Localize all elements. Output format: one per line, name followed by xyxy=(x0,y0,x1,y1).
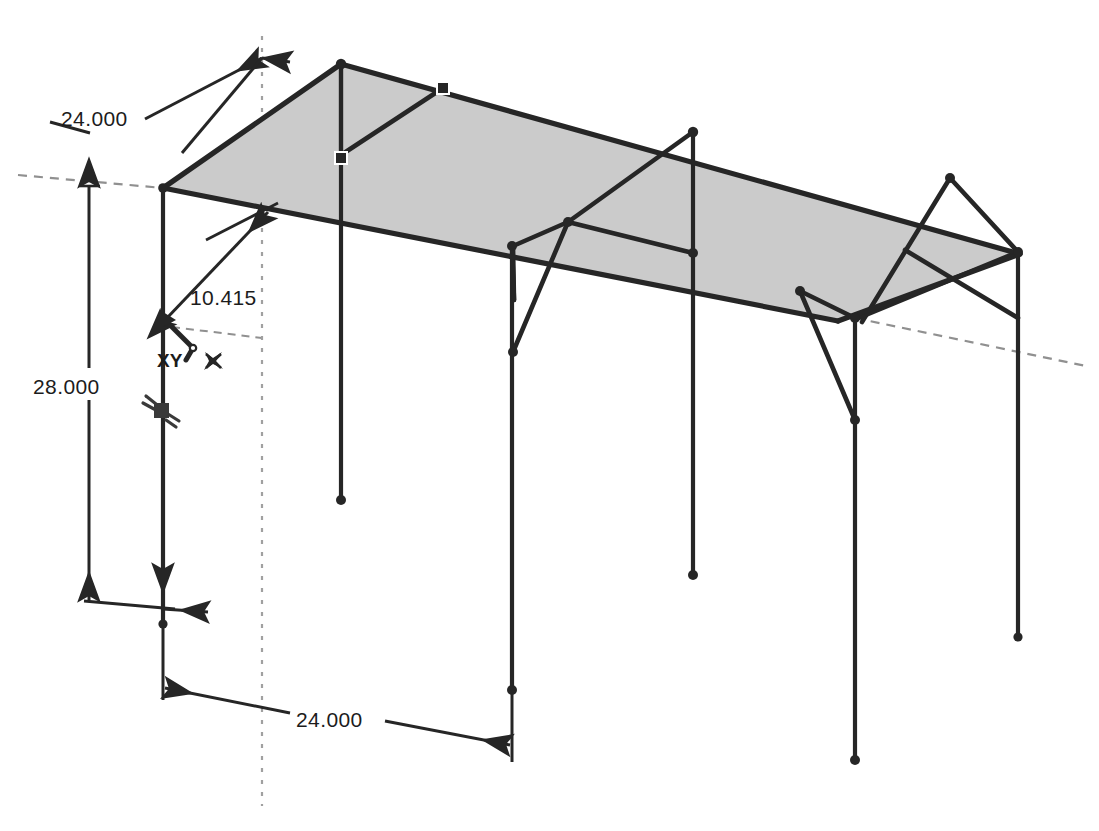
cad-drawing-canvas: 24.000 28.000 28.000 10.415 24.000 xyxy=(0,0,1099,831)
node-roof-brace-right xyxy=(945,173,955,183)
node-base-back-mid xyxy=(688,570,698,580)
origin-axis-endpoint xyxy=(190,345,196,351)
node-roof-front-left xyxy=(158,183,168,193)
node-base-back-right xyxy=(1013,632,1022,641)
node-roof-back-mid xyxy=(688,127,698,137)
dim-label-brace-length: 10.415 xyxy=(190,286,257,309)
origin-plane-label: XY xyxy=(157,350,183,371)
dim-label-bay-length: 24.000 xyxy=(296,708,363,731)
node-roof-back-right xyxy=(1013,247,1023,257)
node-square-column-mid xyxy=(335,152,347,164)
node-roof-back-left xyxy=(336,59,346,69)
node-brace-mid-apex xyxy=(563,217,573,227)
dim-label-column-height-top: 28.000 xyxy=(33,375,100,398)
node-roof-front-right xyxy=(850,313,860,323)
node-brace-right-knee-end xyxy=(850,415,860,425)
node-brace-mid-lower xyxy=(688,248,698,258)
node-base-back-left xyxy=(336,495,346,505)
dim-label-top-width: 24.000 xyxy=(61,107,128,130)
node-base-front-right xyxy=(850,755,860,765)
node-brace-right-knee xyxy=(795,286,805,296)
node-brace-mid-front-end xyxy=(508,347,518,357)
node-square-brace-end xyxy=(437,82,449,94)
node-roof-front-mid xyxy=(507,241,517,251)
brace-mid-front-connector xyxy=(512,246,514,300)
